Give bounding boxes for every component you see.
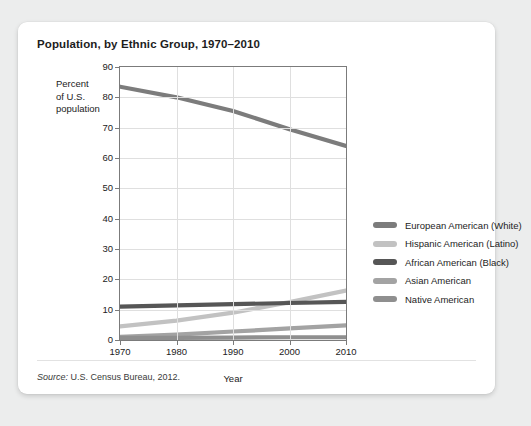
y-axis-tick-label: 70 [87, 122, 113, 133]
y-axis-tick-label: 20 [87, 273, 113, 284]
gridline-vertical [233, 67, 234, 340]
y-axis-tick-label: 60 [87, 152, 113, 163]
y-axis-tick-label: 10 [87, 304, 113, 315]
legend-item: Native American [373, 290, 522, 309]
chart-legend: European American (White)Hispanic Americ… [373, 216, 522, 309]
legend-item-label: Asian American [405, 275, 471, 286]
x-axis-tick-label: 2010 [325, 346, 367, 357]
chart-title: Population, by Ethnic Group, 1970–2010 [37, 38, 260, 50]
y-axis-tick-label: 0 [87, 334, 113, 345]
plot-area [119, 66, 347, 341]
x-axis-tick-mark [233, 341, 234, 345]
x-axis-tick-mark [120, 341, 121, 345]
legend-swatch-icon [373, 241, 397, 247]
legend-item-label: European American (White) [405, 220, 522, 231]
legend-item-label: African American (Black) [405, 257, 509, 268]
y-axis-tick-label: 80 [87, 91, 113, 102]
source-label: Source: [37, 372, 68, 382]
y-axis-tick-label: 40 [87, 213, 113, 224]
y-axis-tick-label: 50 [87, 182, 113, 193]
legend-item: African American (Black) [373, 253, 522, 272]
chart-card: Population, by Ethnic Group, 1970–2010 P… [18, 22, 495, 394]
source-note: Source: U.S. Census Bureau, 2012. [37, 372, 180, 382]
y-axis-title-line-1: Percent [56, 78, 116, 91]
x-axis-tick-label: 1980 [156, 346, 198, 357]
x-axis-tick-mark [177, 341, 178, 345]
gridline-vertical [290, 67, 291, 340]
y-axis-title-line-3: population [56, 103, 116, 116]
x-axis-tick-label: 1970 [99, 346, 141, 357]
legend-swatch-icon [373, 259, 397, 265]
legend-item: Hispanic American (Latino) [373, 235, 522, 254]
x-axis-tick-mark [290, 341, 291, 345]
y-axis-tick-label: 30 [87, 243, 113, 254]
legend-item-label: Hispanic American (Latino) [405, 238, 519, 249]
legend-item: Asian American [373, 272, 522, 291]
source-value: U.S. Census Bureau, 2012. [68, 372, 180, 382]
gridline-vertical [177, 67, 178, 340]
legend-swatch-icon [373, 278, 397, 284]
x-axis-tick-label: 2000 [269, 346, 311, 357]
x-axis-tick-label: 1990 [212, 346, 254, 357]
x-axis-tick-mark [346, 341, 347, 345]
legend-swatch-icon [373, 296, 397, 302]
legend-item: European American (White) [373, 216, 522, 235]
legend-item-label: Native American [405, 294, 474, 305]
source-divider [37, 360, 476, 361]
y-axis-tick-label: 90 [87, 61, 113, 72]
legend-swatch-icon [373, 222, 397, 228]
